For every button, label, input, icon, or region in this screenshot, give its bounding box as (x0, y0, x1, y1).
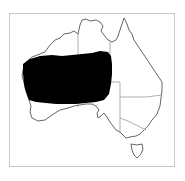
australia-map (0, 0, 185, 181)
distribution-range (23, 51, 112, 104)
coastline-tasmania (131, 144, 143, 158)
